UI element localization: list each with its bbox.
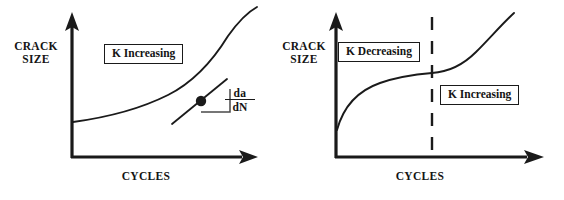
derivative-annotation: da dN bbox=[225, 87, 255, 113]
increasing-k-panel: CRACK SIZE CYCLES K Increasing da dN bbox=[0, 0, 282, 200]
tangent-point-marker bbox=[196, 96, 206, 106]
x-axis-label: CYCLES bbox=[360, 170, 480, 183]
derivative-denominator: dN bbox=[225, 100, 255, 113]
y-axis-label: CRACK SIZE bbox=[6, 40, 66, 66]
x-axis-label: CYCLES bbox=[86, 170, 206, 183]
callout-k-increasing: K Increasing bbox=[104, 44, 183, 64]
decreasing-then-increasing-k-panel: CRACK SIZE CYCLES K Decreasing K Increas… bbox=[282, 0, 564, 200]
y-axis-label: CRACK SIZE bbox=[274, 40, 334, 66]
callout-k-decreasing: K Decreasing bbox=[338, 42, 420, 62]
callout-k-increasing: K Increasing bbox=[440, 85, 519, 105]
derivative-numerator: da bbox=[225, 87, 255, 100]
crack-growth-curve bbox=[337, 13, 514, 130]
figure-root: CRACK SIZE CYCLES K Increasing da dN CRA… bbox=[0, 0, 564, 200]
